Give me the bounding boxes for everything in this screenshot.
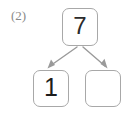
item-number-label: (2) — [11, 9, 26, 23]
worksheet-item-canvas: (2) 7 1 — [0, 0, 131, 114]
number-bond-box-part-one[interactable]: 1 — [33, 70, 69, 107]
whole-value: 7 — [73, 14, 86, 38]
arrow-to-right-part — [83, 47, 108, 69]
arrow-to-left-part — [48, 47, 78, 69]
part-one-value: 1 — [44, 75, 58, 100]
number-bond-box-whole[interactable]: 7 — [62, 8, 98, 46]
number-bond-box-part-two[interactable] — [85, 70, 121, 107]
